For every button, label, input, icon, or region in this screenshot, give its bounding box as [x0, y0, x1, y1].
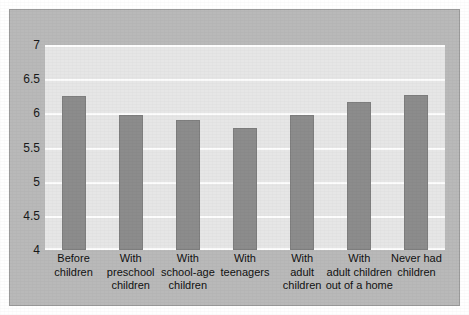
y-tick-label: 5.5: [23, 142, 40, 154]
bar: [62, 96, 86, 250]
y-tick-label: 6.5: [23, 73, 40, 85]
bar: [119, 115, 143, 250]
bar: [404, 95, 428, 250]
y-tick-label: 6: [33, 107, 40, 119]
y-tick-label: 4.5: [23, 210, 40, 222]
x-axis-category-labels: Before childrenWith preschool childrenWi…: [45, 252, 445, 306]
bar-chart-figure: 76.565.554.54 Before childrenWith presch…: [0, 0, 469, 315]
bar: [290, 115, 314, 250]
bar: [176, 120, 200, 250]
bar: [233, 128, 257, 250]
x-category-label: Never had children: [380, 252, 453, 279]
y-axis: 76.565.554.54: [8, 45, 40, 250]
bars-layer: [45, 45, 445, 250]
bar: [347, 102, 371, 250]
y-tick-label: 7: [33, 39, 40, 51]
y-tick-label: 5: [33, 176, 40, 188]
